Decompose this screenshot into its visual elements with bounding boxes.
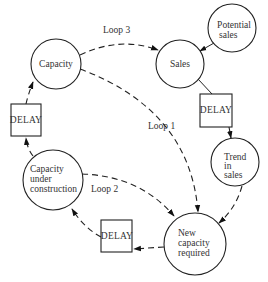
node-capacity-under-construction: Capacity under construction (23, 150, 83, 210)
edge-new-capacity-to-delay (134, 247, 164, 249)
svg-text:sales: sales (224, 170, 243, 180)
loop-2-label: Loop 2 (91, 184, 118, 194)
svg-text:required: required (178, 248, 210, 258)
svg-text:Capacity: Capacity (39, 59, 73, 69)
svg-text:construction: construction (30, 184, 77, 194)
edge-trend-to-new-capacity (219, 186, 242, 223)
svg-text:Potential: Potential (217, 20, 251, 30)
svg-text:under: under (30, 174, 52, 184)
svg-text:Sales: Sales (170, 59, 190, 69)
node-delay-left: DELAY (10, 104, 42, 136)
node-sales: Sales (156, 40, 204, 88)
svg-text:Capacity: Capacity (30, 164, 64, 174)
edge-cuc-to-new-capacity (82, 174, 174, 216)
edge-potential-sales-to-sales (200, 43, 214, 51)
edge-delay-to-trend (229, 127, 231, 138)
node-trend-in-sales: Trend in sales (211, 138, 259, 186)
loop-3-label: Loop 3 (103, 25, 130, 35)
edge-cuc-to-delay (26, 138, 33, 156)
svg-text:DELAY: DELAY (200, 105, 232, 115)
svg-text:sales: sales (219, 30, 238, 40)
svg-text:New: New (178, 228, 196, 238)
edge-capacity-to-sales (80, 44, 158, 55)
svg-text:DELAY: DELAY (101, 231, 133, 241)
causal-loop-diagram: Loop 3 Loop 1 Loop 2 Capacity Sales Pote… (0, 0, 268, 282)
edge-sales-to-delay (198, 79, 212, 94)
edge-delay-to-cuc (72, 209, 101, 237)
loop-1-label: Loop 1 (148, 121, 175, 131)
node-delay-bottom: DELAY (101, 220, 133, 252)
node-capacity: Capacity (31, 39, 81, 89)
node-potential-sales: Potential sales (208, 4, 256, 52)
node-delay-right: DELAY (200, 94, 232, 127)
svg-text:capacity: capacity (178, 238, 210, 248)
edge-delay-to-capacity (26, 82, 33, 104)
node-new-capacity-required: New capacity required (164, 213, 226, 275)
svg-text:DELAY: DELAY (10, 115, 42, 125)
